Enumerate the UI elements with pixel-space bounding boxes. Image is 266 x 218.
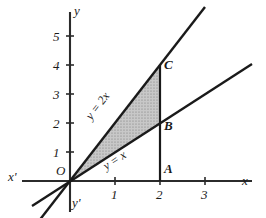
x-negative-axis-label: x' [8,170,17,183]
origin-label: O [56,164,65,177]
x-axis-label: x [242,174,248,187]
y-axis-label: y [74,4,80,17]
y-negative-axis-label: y' [72,196,81,209]
graph-canvas [0,0,266,218]
line-y-equals-x [32,64,252,206]
coordinate-graph-figure: x x' y y' O 1 2 3 1 2 3 4 5 A B C y = 2x… [0,0,266,218]
point-label-c: C [164,58,173,71]
point-label-a: A [164,162,173,175]
x-tick-label-2: 2 [156,188,163,201]
y-tick-label-1: 1 [53,146,60,159]
y-tick-label-4: 4 [53,59,60,72]
x-tick-label-3: 3 [201,188,208,201]
y-tick-label-3: 3 [53,88,60,101]
y-tick-label-5: 5 [53,30,60,43]
x-tick-label-1: 1 [111,188,118,201]
point-label-b: B [164,119,173,132]
y-tick-label-2: 2 [53,117,60,130]
